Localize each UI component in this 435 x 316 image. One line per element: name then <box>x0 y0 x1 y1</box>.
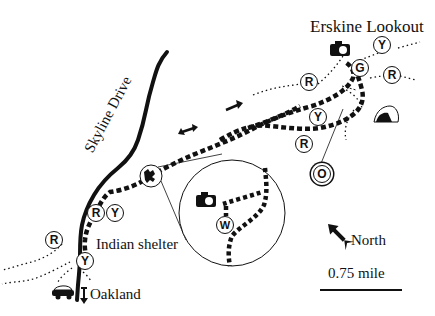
lookout-label: Erskine Lookout <box>310 18 424 35</box>
trail-map: Erskine Lookout Skyline Drive Indian she… <box>0 0 435 316</box>
loop-trail <box>220 72 363 140</box>
marker-r: R <box>300 73 318 91</box>
two-way-arrow-icon <box>178 124 198 135</box>
shelter-label: Indian shelter <box>96 237 178 252</box>
marker-y: Y <box>106 204 124 222</box>
marker-w: W <box>216 216 234 234</box>
north-arrow-icon <box>324 220 354 250</box>
marker-y: Y <box>309 108 327 126</box>
north-label: North <box>351 233 386 248</box>
one-way-arrow-icon <box>226 100 243 110</box>
marker-r: R <box>295 135 313 153</box>
tent-icon <box>374 106 399 122</box>
detail-magnifier-circle <box>179 160 285 266</box>
marker-r: R <box>45 231 63 249</box>
scale-label: 0.75 mile <box>328 266 385 281</box>
marker-y: Y <box>373 36 391 54</box>
marker-r: R <box>383 66 401 84</box>
car-icon <box>52 286 74 300</box>
town-label: Oakland <box>90 287 141 302</box>
marker-g: G <box>351 59 369 77</box>
marker-y: Y <box>76 252 94 270</box>
marker-r: R <box>87 204 105 222</box>
camera-icon <box>330 41 350 56</box>
marker-o: O <box>313 165 331 183</box>
trailhead-icon <box>80 288 88 304</box>
